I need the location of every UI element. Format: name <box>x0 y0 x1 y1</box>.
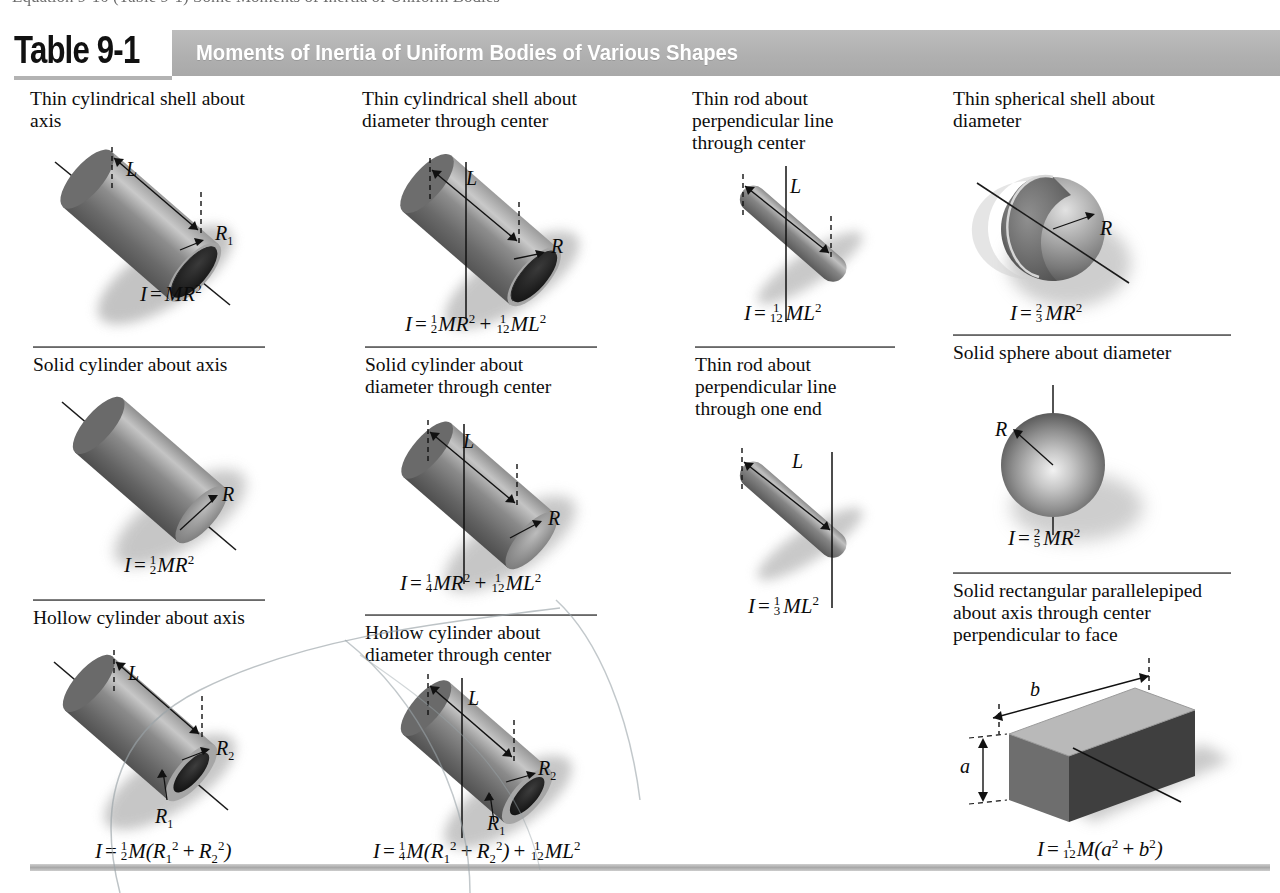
dimension-label-L: L <box>466 167 477 190</box>
column-separator <box>695 346 895 348</box>
dimension-label-R1: R1 <box>155 805 173 832</box>
formula-thin-rod-end: I=13ML2 <box>748 593 819 619</box>
dimension-label-L: L <box>792 450 803 473</box>
column-separator <box>365 614 597 616</box>
entry-hollow-cylinder-diameter: Hollow cylinder about diameter through c… <box>365 622 675 666</box>
entry-caption: Thin cylindrical shell about diameter th… <box>362 88 672 132</box>
dimension-label-L: L <box>128 662 139 685</box>
dimension-label-b: b <box>1030 678 1040 701</box>
formula-thin-spherical-shell: I=23MR2 <box>1010 300 1082 326</box>
dimension-label-L: L <box>126 158 137 181</box>
figure-rectangular-parallelepiped <box>953 652 1273 852</box>
dimension-label-L: L <box>463 430 474 453</box>
dimension-label-a: a <box>960 755 970 778</box>
dimension-label-R: R <box>548 507 560 530</box>
formula-rectangular-parallelepiped: I=112M(a2 + b2) <box>1037 836 1163 862</box>
dimension-label-R: R <box>995 418 1007 441</box>
dimension-label-R2: R2 <box>216 737 234 764</box>
dimension-label-L: L <box>790 175 801 198</box>
dimension-label-R1: R1 <box>215 222 233 249</box>
page-title: Moments of Inertia of Uniform Bodies of … <box>196 40 738 66</box>
entry-solid-cylinder-diameter: Solid cylinder about diameter through ce… <box>365 354 675 398</box>
entry-caption: Hollow cylinder about diameter through c… <box>365 622 675 666</box>
entry-solid-sphere: Solid sphere about diameter <box>953 342 1273 364</box>
dimension-label-R: R <box>551 235 563 258</box>
entry-caption: Solid cylinder about axis <box>33 354 333 376</box>
entry-thin-cylindrical-shell-axis: Thin cylindrical shell about axis <box>30 88 330 132</box>
column-separator <box>953 334 1231 336</box>
entry-caption: Thin rod about perpendicular line throug… <box>692 88 932 154</box>
entry-hollow-cylinder-axis: Hollow cylinder about axis <box>33 607 343 629</box>
dimension-label-L: L <box>468 687 479 710</box>
entry-caption: Thin cylindrical shell about axis <box>30 88 330 132</box>
entry-thin-spherical-shell: Thin spherical shell about diameter <box>953 88 1273 132</box>
figure-hollow-cylinder-diameter <box>362 670 662 855</box>
column-separator <box>33 346 265 348</box>
entry-caption: Solid sphere about diameter <box>953 342 1273 364</box>
entry-thin-rod-center: Thin rod about perpendicular line throug… <box>692 88 932 154</box>
column-separator <box>953 572 1231 574</box>
dimension-label-R: R <box>1100 217 1112 240</box>
entry-thin-cylindrical-shell-diameter: Thin cylindrical shell about diameter th… <box>362 88 672 132</box>
clipped-top-text-line: Equation 9-10 (Table 9-1) Some Moments o… <box>0 0 1280 9</box>
entry-caption: Solid cylinder about diameter through ce… <box>365 354 675 398</box>
dimension-label-R2: R2 <box>538 757 556 784</box>
formula-thin-rod-center: I=112ML2 <box>744 300 822 326</box>
entry-thin-rod-end: Thin rod about perpendicular line throug… <box>695 354 935 420</box>
formula-solid-cylinder-axis: I=12MR2 <box>124 552 194 578</box>
formula-thin-cylindrical-shell-axis: I=MR2 <box>140 281 202 307</box>
column-separator <box>33 599 265 601</box>
entry-rectangular-parallelepiped: Solid rectangular parallelepiped about a… <box>953 580 1280 646</box>
formula-solid-sphere: I=25MR2 <box>1008 525 1080 551</box>
figure-thin-cylindrical-shell-diameter <box>362 140 662 330</box>
formula-solid-cylinder-diameter: I=14MR2 + 112ML2 <box>400 570 541 596</box>
table-number: Table 9-1 <box>14 29 139 72</box>
clipped-top-text: Equation 9-10 (Table 9-1) Some Moments o… <box>0 0 1280 7</box>
entry-caption: Thin spherical shell about diameter <box>953 88 1273 132</box>
table-bottom-rule <box>30 864 1270 871</box>
table-header: Table 9-1 Moments of Inertia of Uniform … <box>0 30 1280 76</box>
entry-caption: Solid rectangular parallelepiped about a… <box>953 580 1280 646</box>
column-separator <box>365 346 597 348</box>
dimension-label-R1: R1 <box>487 812 505 839</box>
figure-solid-sphere <box>953 375 1253 560</box>
figure-hollow-cylinder-axis <box>30 640 320 840</box>
entry-solid-cylinder-axis: Solid cylinder about axis <box>33 354 333 376</box>
entry-caption: Thin rod about perpendicular line throug… <box>695 354 935 420</box>
entry-caption: Hollow cylinder about axis <box>33 607 343 629</box>
dimension-label-R: R <box>222 483 234 506</box>
formula-thin-cylindrical-shell-diameter: I=12MR2 + 112ML2 <box>405 311 546 337</box>
header-underline <box>14 76 172 80</box>
